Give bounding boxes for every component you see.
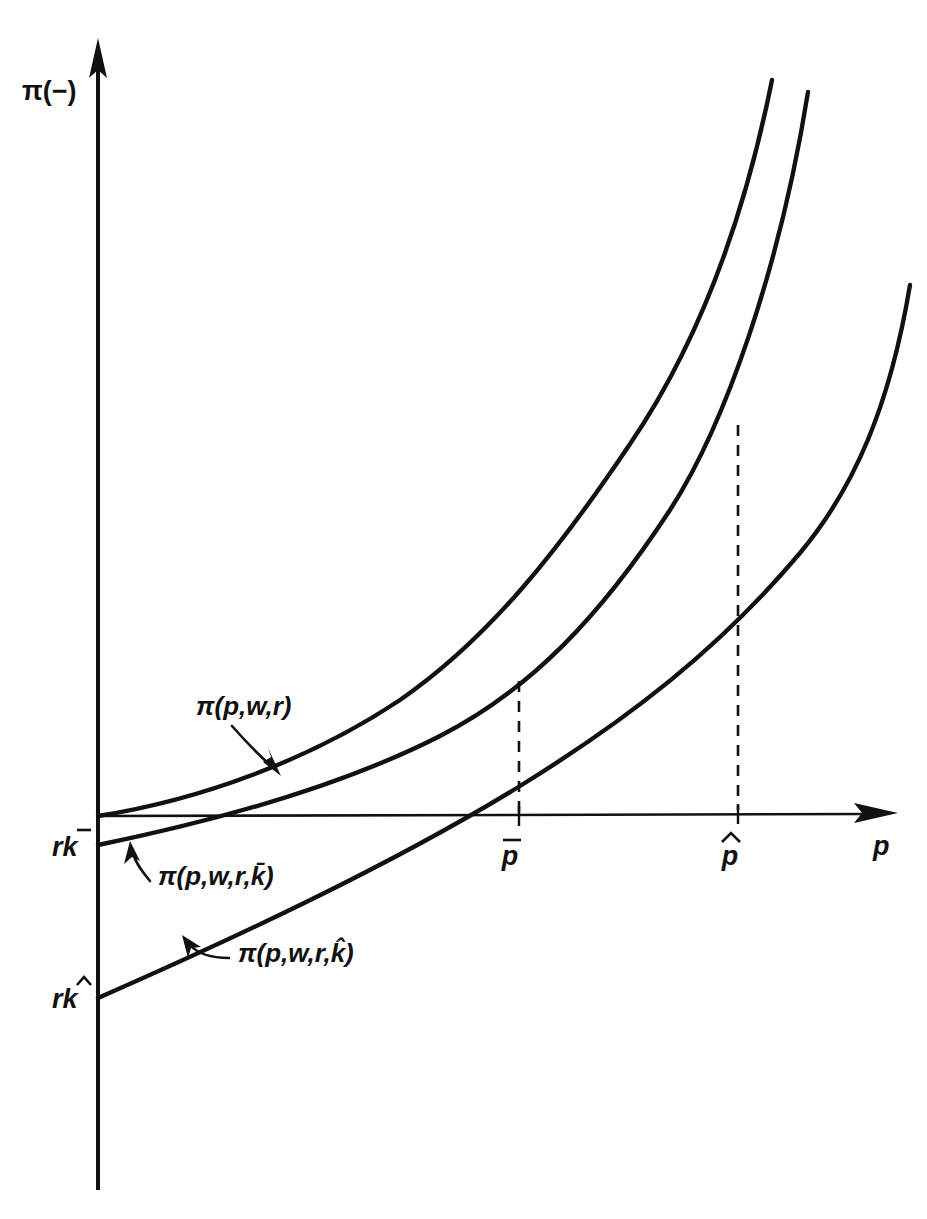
curve-pi-pwr-khat xyxy=(98,285,910,998)
figure-canvas: π(−) p rk rk p p xyxy=(0,0,927,1219)
y-axis-label: π(−) xyxy=(22,76,76,106)
curve-label-pi-pwr-khat: π(p,w,r,k̂) xyxy=(238,937,354,968)
x-tick-label-p-bar-text: p xyxy=(501,841,519,871)
x-tick-label-p-bar: p xyxy=(501,840,521,871)
axes-group xyxy=(89,38,898,1190)
x-tick-label-p-hat-text: p xyxy=(721,841,739,871)
y-intercept-label-rk-bar-text: rk xyxy=(52,832,80,862)
y-intercept-label-rk-hat-text: rk xyxy=(52,984,80,1014)
leader-arrowhead-pi-pwr-kbar xyxy=(124,841,140,864)
x-axis-label: p xyxy=(872,831,890,861)
y-intercept-label-rk-bar: rk xyxy=(52,830,91,862)
profit-function-figure: π(−) p rk rk p p xyxy=(0,0,927,1219)
x-axis-line xyxy=(98,814,868,816)
hat-accent-rk-hat xyxy=(77,977,91,985)
curve-label-pi-pwr-kbar: π(p,w,r,k̄) xyxy=(158,861,274,891)
labels-group: π(−) p rk rk p p xyxy=(22,76,890,1014)
x-tick-label-p-hat: p xyxy=(721,833,740,871)
y-intercept-label-rk-hat: rk xyxy=(52,977,91,1014)
curve-label-pi-pwr: π(p,w,r) xyxy=(196,691,292,721)
curve-pi-pwr-kbar xyxy=(98,92,808,845)
